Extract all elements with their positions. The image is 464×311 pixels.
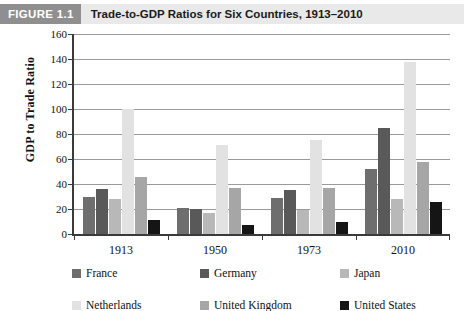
legend-item-france[interactable]: France <box>72 267 117 279</box>
y-axis-tick-label: 160 <box>51 28 68 40</box>
bar-united-states-1950[interactable] <box>242 225 254 234</box>
bar-germany-1950[interactable] <box>190 209 202 234</box>
legend-item-netherlands[interactable]: Netherlands <box>72 299 142 311</box>
bar-united-states-2010[interactable] <box>430 202 442 235</box>
figure-header: FIGURE 1.1 Trade-to-GDP Ratios for Six C… <box>0 4 464 24</box>
bar-group-1913: 1913 <box>74 34 168 234</box>
figure-title: Trade-to-GDP Ratios for Six Countries, 1… <box>81 4 363 24</box>
bar-france-1913[interactable] <box>83 197 95 235</box>
legend-swatch-netherlands <box>72 301 81 310</box>
y-axis-title: GDP to Trade Ratio <box>23 35 38 185</box>
legend-item-japan[interactable]: Japan <box>340 267 380 279</box>
legend-label: Netherlands <box>86 299 142 311</box>
y-axis-tick-label: 80 <box>56 128 67 140</box>
x-axis-tick-mark <box>262 234 263 240</box>
legend-item-united-states[interactable]: United States <box>340 299 416 311</box>
legend-label: United Kingdom <box>214 299 292 311</box>
x-axis-tick-label: 1913 <box>74 243 168 258</box>
legend-item-germany[interactable]: Germany <box>200 267 257 279</box>
bar-netherlands-2010[interactable] <box>404 62 416 235</box>
bar-united-kingdom-2010[interactable] <box>417 162 429 235</box>
chart-legend: FranceGermanyJapanNetherlandsUnited King… <box>72 267 448 301</box>
legend-label: Germany <box>214 267 257 279</box>
legend-row: FranceGermanyJapan <box>72 267 448 282</box>
chart-area: GDP to Trade Ratio 160140120100806040200… <box>0 24 464 300</box>
bar-germany-1913[interactable] <box>96 189 108 234</box>
legend-label: France <box>86 267 117 279</box>
legend-swatch-united-states <box>340 301 349 310</box>
x-axis-tick-mark <box>74 234 75 240</box>
bar-france-1950[interactable] <box>177 208 189 234</box>
x-axis-tick-label: 1950 <box>168 243 262 258</box>
y-axis-tick-label: 40 <box>56 178 67 190</box>
bar-united-states-1913[interactable] <box>148 220 160 234</box>
bar-united-kingdom-1913[interactable] <box>135 177 147 235</box>
x-axis-tick-mark <box>449 234 450 240</box>
bar-france-1973[interactable] <box>271 198 283 234</box>
x-axis-tick-mark <box>356 234 357 240</box>
x-axis-tick-label: 2010 <box>356 243 450 258</box>
legend-row: NetherlandsUnited KingdomUnited States <box>72 284 448 299</box>
legend-swatch-france <box>72 269 81 278</box>
bar-united-states-1973[interactable] <box>336 222 348 235</box>
legend-swatch-germany <box>200 269 209 278</box>
y-axis-tick-label: 100 <box>51 103 68 115</box>
bar-japan-1913[interactable] <box>109 199 121 234</box>
bar-japan-1950[interactable] <box>203 213 215 234</box>
bar-united-kingdom-1950[interactable] <box>229 188 241 234</box>
bar-japan-1973[interactable] <box>297 210 309 234</box>
bar-netherlands-1913[interactable] <box>122 109 134 234</box>
plot-area: 160140120100806040200 1913195019732010 <box>72 34 450 236</box>
bar-france-2010[interactable] <box>365 169 377 234</box>
legend-label: Japan <box>354 267 380 279</box>
y-axis-tick-label: 120 <box>51 78 68 90</box>
x-axis-tick-label: 1973 <box>262 243 356 258</box>
bar-united-kingdom-1973[interactable] <box>323 188 335 234</box>
bar-group-1950: 1950 <box>168 34 262 234</box>
y-axis-tick-label: 0 <box>62 228 68 240</box>
legend-swatch-united-kingdom <box>200 301 209 310</box>
bar-germany-1973[interactable] <box>284 190 296 234</box>
legend-swatch-japan <box>340 269 349 278</box>
bar-germany-2010[interactable] <box>378 128 390 234</box>
x-axis-tick-mark <box>168 234 169 240</box>
y-axis-tick-label: 20 <box>56 203 67 215</box>
y-axis-tick-label: 140 <box>51 53 68 65</box>
y-axis-tick-label: 60 <box>56 153 67 165</box>
bar-japan-2010[interactable] <box>391 199 403 234</box>
figure-number-badge: FIGURE 1.1 <box>0 4 81 24</box>
legend-item-united-kingdom[interactable]: United Kingdom <box>200 299 292 311</box>
bar-netherlands-1973[interactable] <box>310 140 322 234</box>
bar-group-2010: 2010 <box>356 34 450 234</box>
bar-netherlands-1950[interactable] <box>216 145 228 234</box>
bar-group-1973: 1973 <box>262 34 356 234</box>
legend-label: United States <box>354 299 416 311</box>
